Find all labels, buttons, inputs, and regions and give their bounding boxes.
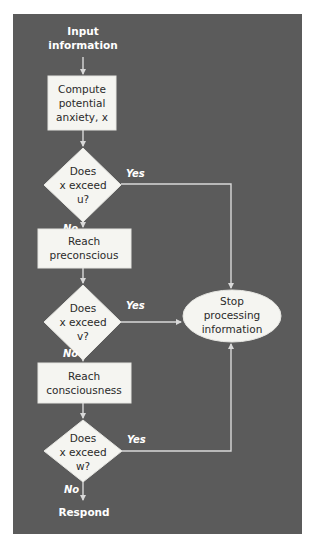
svg-text:Does: Does bbox=[70, 302, 96, 314]
svg-text:Reach: Reach bbox=[68, 235, 100, 247]
svg-text:consciousness: consciousness bbox=[46, 384, 122, 396]
svg-text:potential: potential bbox=[59, 97, 106, 109]
yes-label-u: Yes bbox=[126, 168, 145, 179]
decision-u-node: Does x exceed u? bbox=[44, 148, 121, 222]
svg-text:Stop: Stop bbox=[220, 295, 244, 307]
svg-text:w?: w? bbox=[76, 460, 90, 472]
svg-text:v?: v? bbox=[77, 330, 89, 342]
decision-w-node: Does x exceed w? bbox=[44, 420, 122, 482]
svg-text:x exceed: x exceed bbox=[59, 316, 106, 328]
yes-label-w: Yes bbox=[127, 434, 146, 445]
stop-processing-node: Stop processing information bbox=[183, 290, 281, 342]
svg-text:Input: Input bbox=[67, 25, 98, 37]
reach-preconscious-node: Reach preconscious bbox=[38, 229, 131, 268]
compute-anxiety-node: Compute potential anxiety, x bbox=[48, 76, 116, 130]
svg-text:information: information bbox=[48, 39, 117, 51]
svg-text:x exceed: x exceed bbox=[59, 446, 106, 458]
respond-label: Respond bbox=[58, 506, 109, 518]
svg-text:information: information bbox=[202, 323, 263, 335]
svg-text:preconscious: preconscious bbox=[50, 249, 119, 261]
decision-v-node: Does x exceed v? bbox=[44, 285, 121, 360]
no-label-v: No bbox=[63, 348, 78, 359]
svg-text:Does: Does bbox=[70, 165, 96, 177]
input-information-label: Input information bbox=[48, 25, 117, 51]
svg-text:processing: processing bbox=[204, 309, 261, 321]
no-label-w: No bbox=[64, 484, 79, 495]
svg-text:Compute: Compute bbox=[58, 83, 106, 95]
svg-text:Reach: Reach bbox=[68, 370, 100, 382]
svg-text:x exceed: x exceed bbox=[59, 179, 106, 191]
svg-text:anxiety, x: anxiety, x bbox=[56, 111, 108, 123]
edge-decision-u-stop bbox=[121, 184, 231, 288]
flowchart: Input information Compute potential anxi… bbox=[0, 0, 312, 543]
svg-text:u?: u? bbox=[77, 193, 89, 205]
svg-text:Does: Does bbox=[70, 432, 96, 444]
reach-consciousness-node: Reach consciousness bbox=[38, 363, 131, 403]
yes-label-v: Yes bbox=[126, 300, 145, 311]
